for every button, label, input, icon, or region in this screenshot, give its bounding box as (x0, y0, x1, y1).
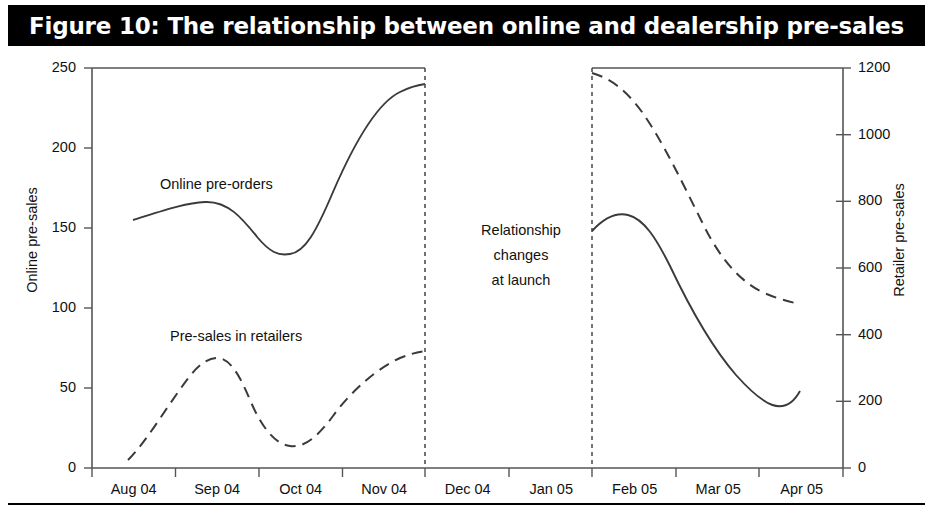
left-tick-200: 200 (30, 139, 76, 155)
x-label-jan-05: Jan 05 (509, 481, 593, 497)
right-tick-400: 400 (858, 326, 910, 342)
launch-annotation: Relationship changes at launch (455, 218, 587, 293)
series-label-online-pre-orders: Online pre-orders (160, 176, 273, 192)
series-online-pre-orders-post-launch (592, 214, 800, 406)
x-label-sep-04: Sep 04 (175, 481, 259, 497)
series-pre-sales-in-retailers-pre-launch (128, 351, 425, 460)
right-tick-0: 0 (858, 459, 910, 475)
left-tick-250: 250 (30, 59, 76, 75)
launch-annotation-line-3: at launch (455, 268, 587, 293)
x-label-apr-05: Apr 05 (760, 481, 844, 497)
right-tick-1200: 1200 (858, 59, 910, 75)
left-tick-50: 50 (30, 379, 76, 395)
right-tick-200: 200 (858, 392, 910, 408)
x-axis-ticks (92, 468, 843, 477)
figure-container: Figure 10: The relationship between onli… (0, 0, 933, 515)
x-label-nov-04: Nov 04 (342, 481, 426, 497)
series-online-pre-orders-pre-launch (133, 84, 425, 254)
series-label-pre-sales-in-retailers: Pre-sales in retailers (170, 328, 302, 344)
launch-annotation-line-1: Relationship (455, 218, 587, 243)
right-tick-1000: 1000 (858, 126, 910, 142)
x-label-dec-04: Dec 04 (426, 481, 510, 497)
footer-rule (8, 503, 925, 505)
x-label-aug-04: Aug 04 (92, 481, 176, 497)
left-axis-ticks (84, 68, 92, 468)
x-label-mar-05: Mar 05 (676, 481, 760, 497)
right-axis-title: Retailer pre-sales (891, 170, 907, 310)
left-tick-0: 0 (30, 459, 76, 475)
left-axis-title: Online pre-sales (24, 170, 40, 310)
x-label-feb-05: Feb 05 (593, 481, 677, 497)
x-label-oct-04: Oct 04 (259, 481, 343, 497)
launch-annotation-line-2: changes (455, 243, 587, 268)
series-pre-sales-in-retailers-post-launch (592, 73, 800, 304)
